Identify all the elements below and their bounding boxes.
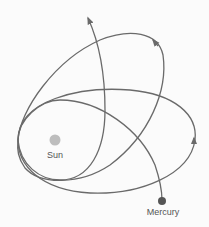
mercury-dot: [158, 197, 166, 205]
orbit-diagram: [0, 0, 209, 227]
mercury-label: Mercury: [147, 207, 180, 217]
orbit-path-3: [18, 100, 162, 200]
sun-label: Sun: [47, 150, 63, 160]
sun-dot: [50, 135, 61, 146]
